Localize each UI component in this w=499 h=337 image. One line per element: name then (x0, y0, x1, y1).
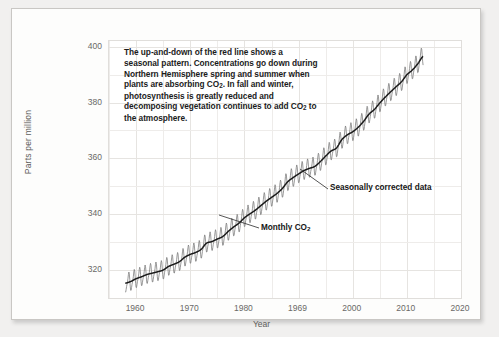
callout-seasonally-corrected: Seasonally corrected data (330, 183, 431, 192)
y-tick-label: 320 (68, 264, 102, 274)
y-axis-title: Parts per million (23, 82, 33, 202)
seasonal-pattern-annotation: The up-and-down of the red line shows a … (124, 47, 320, 124)
x-tick-label: 2020 (437, 303, 483, 313)
callout-seasonal-label: Seasonally corrected data (330, 183, 431, 192)
annotation-line-2: seasonal pattern. Concentrations go down (124, 58, 290, 68)
x-tick-label: 1980 (220, 303, 266, 313)
callout-monthly-co2: Monthly CO2 (261, 223, 310, 232)
chart-card: Parts per million Year 320340360380400 1… (11, 8, 481, 320)
y-tick-label: 360 (68, 152, 102, 162)
x-tick-label: 1970 (166, 303, 212, 313)
x-axis-title: Year (12, 319, 499, 329)
x-tick-label: 2000 (329, 303, 375, 313)
annotation-line-4-end: . (223, 79, 225, 89)
y-tick-label: 400 (68, 41, 102, 51)
callout-monthly-label: Monthly CO (261, 223, 307, 232)
x-tick-label: 2010 (383, 303, 429, 313)
y-tick-label: 380 (68, 97, 102, 107)
callout-monthly-subscript: 2 (307, 225, 310, 232)
scanned-page-background: Parts per million Year 320340360380400 1… (0, 0, 499, 337)
x-tick-label: 1969 (275, 303, 321, 313)
gridline-vertical (461, 41, 462, 298)
x-tick-label: 1960 (112, 303, 158, 313)
annotation-line-8: atmosphere. (139, 113, 188, 123)
y-tick-label: 340 (68, 208, 102, 218)
annotation-line-1: The up-and-down of the red line shows a (124, 47, 283, 57)
annotation-line-7: vegetation continues to add CO (180, 101, 303, 111)
